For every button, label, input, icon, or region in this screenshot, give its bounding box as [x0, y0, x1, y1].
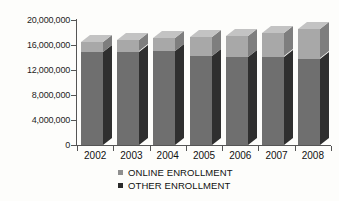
bar-3d-wrapper [262, 26, 293, 145]
x-tick-mark [77, 146, 78, 151]
segment-online-enrollment [298, 29, 320, 58]
y-tick-label: 20,000,000 [27, 15, 70, 25]
x-tick-mark [113, 146, 114, 151]
bar-stack [153, 38, 175, 145]
bar-top-face [226, 29, 257, 36]
legend-item: ONLINE ENROLLMENT [0, 166, 339, 179]
x-tick-mark [150, 146, 151, 151]
bar-3d-wrapper [153, 31, 184, 145]
segment-other-enrollment [262, 57, 284, 145]
legend-swatch-icon [118, 183, 123, 188]
segment-online-enrollment [81, 42, 103, 52]
x-tick-mark [331, 146, 332, 151]
segment-other-enrollment-side-face [103, 45, 112, 145]
segment-online-enrollment [226, 36, 248, 57]
bar-3d-wrapper [226, 29, 257, 145]
segment-other-enrollment [226, 57, 248, 145]
bar-3d-wrapper [190, 30, 221, 145]
segment-other-enrollment [190, 56, 212, 145]
segment-other-enrollment-side-face [284, 50, 293, 145]
segment-online-enrollment [117, 40, 139, 51]
y-tick-label: 4,000,000 [32, 115, 70, 125]
bar-3d-wrapper [81, 35, 112, 145]
legend-label: OTHER ENROLLMENT [128, 180, 230, 191]
segment-online-enrollment [262, 33, 284, 56]
segment-online-enrollment-front-face [81, 42, 103, 52]
bar-top-face [262, 26, 293, 33]
bar-body [81, 42, 112, 145]
segment-other-enrollment-side-face [175, 44, 184, 145]
bar-top-holder [153, 31, 184, 38]
legend-item: OTHER ENROLLMENT [0, 179, 339, 192]
x-tick-mark [222, 146, 223, 151]
segment-online-enrollment [190, 37, 212, 56]
segment-other-enrollment-side-face [320, 52, 329, 145]
bar-column [226, 29, 257, 145]
segment-other-enrollment-front-face [262, 57, 284, 145]
segment-other-enrollment-front-face [190, 56, 212, 145]
y-tick-label: 0 [65, 140, 70, 150]
x-tick-label: 2005 [193, 150, 215, 161]
bar-body [298, 29, 329, 145]
segment-other-enrollment-front-face [226, 57, 248, 145]
bar-3d-wrapper [117, 33, 148, 145]
bar-column [262, 26, 293, 145]
segment-online-enrollment [153, 38, 175, 51]
bar-stack [298, 29, 320, 145]
x-tick-mark [186, 146, 187, 151]
bar-top-holder [81, 35, 112, 42]
segment-online-enrollment-front-face [298, 29, 320, 58]
segment-online-enrollment-front-face [226, 36, 248, 57]
bar-column [153, 31, 184, 145]
segment-online-enrollment-front-face [153, 38, 175, 51]
bar-column [298, 22, 329, 145]
x-tick-label: 2004 [157, 150, 179, 161]
segment-other-enrollment-side-face [212, 49, 221, 145]
segment-other-enrollment-front-face [117, 52, 139, 145]
segment-online-enrollment-front-face [117, 40, 139, 51]
bar-column [117, 33, 148, 145]
y-tick-label: 12,000,000 [27, 65, 70, 75]
segment-other-enrollment [117, 52, 139, 145]
bar-3d-wrapper [298, 22, 329, 145]
segment-other-enrollment-front-face [153, 51, 175, 145]
x-tick-label: 2008 [302, 150, 324, 161]
bar-stack [190, 37, 212, 145]
y-axis-line [76, 19, 77, 146]
segment-other-enrollment-front-face [81, 52, 103, 145]
bar-top-holder [190, 30, 221, 37]
segment-other-enrollment-side-face [248, 50, 257, 145]
bar-stack [262, 33, 284, 145]
segment-other-enrollment [81, 52, 103, 145]
x-tick-mark [295, 146, 296, 151]
segment-online-enrollment-front-face [190, 37, 212, 56]
segment-online-enrollment-front-face [262, 33, 284, 56]
x-tick-label: 2006 [229, 150, 251, 161]
bar-body [262, 33, 293, 145]
bar-top-holder [226, 29, 257, 36]
x-tick-mark [258, 146, 259, 151]
y-tick-label: 16,000,000 [27, 40, 70, 50]
bar-stack [226, 36, 248, 145]
bar-stack [81, 42, 103, 145]
x-tick-label: 2002 [84, 150, 106, 161]
bar-body [153, 38, 184, 145]
bar-top-face [298, 22, 329, 29]
segment-other-enrollment-front-face [298, 59, 320, 145]
bar-top-holder [262, 26, 293, 33]
x-tick-label: 2007 [265, 150, 287, 161]
bar-body [190, 37, 221, 145]
bar-stack [117, 40, 139, 145]
segment-other-enrollment [298, 59, 320, 145]
legend-swatch-icon [118, 170, 123, 175]
bar-top-face [190, 30, 221, 37]
x-tick-label: 2003 [120, 150, 142, 161]
bar-column [190, 30, 221, 145]
bar-top-face [153, 31, 184, 38]
bar-top-face [81, 35, 112, 42]
bar-body [117, 40, 148, 145]
enrollment-stacked-bar-chart: 04,000,0008,000,00012,000,00016,000,0002… [0, 0, 339, 201]
bar-top-holder [298, 22, 329, 29]
bar-body [226, 36, 257, 145]
legend-label: ONLINE ENROLLMENT [128, 167, 233, 178]
